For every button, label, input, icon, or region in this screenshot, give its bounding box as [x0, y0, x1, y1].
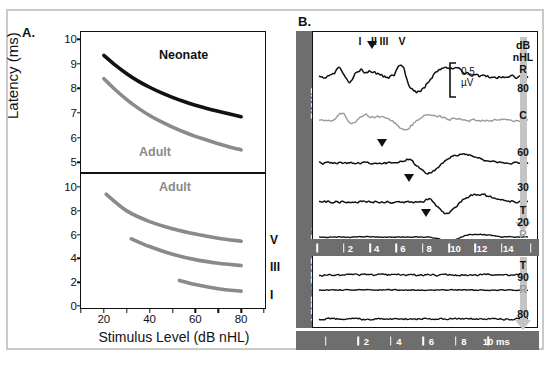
panel-a-xtick-mark: [172, 308, 173, 313]
right-col-header-1: dB: [506, 39, 540, 51]
time-tick-mark: [422, 243, 424, 252]
panel-a-xtick-mark: [80, 308, 81, 313]
time-tick-mark: [455, 336, 457, 345]
time-tick-mark: [390, 336, 392, 345]
panel-a-xtick: 20: [97, 313, 110, 325]
wave-v-peak-marker-30: [404, 174, 414, 182]
panel-a: A. Latency (ms) Stimulus Level (dB nHL) …: [8, 11, 290, 348]
panel-b-waveforms: [313, 32, 535, 325]
time-tick-mark: [530, 243, 532, 252]
wave-v-label: V: [270, 233, 278, 247]
level-arrow-lower-head: [515, 320, 531, 330]
panel-a-xtick-mark: [218, 308, 219, 313]
right-col-label-30: 30: [506, 181, 540, 193]
time-tick-label: 2: [364, 335, 369, 346]
panel-b-side-bar: RIGHT LEFT < TEST EAR >: [296, 31, 313, 328]
adult-curve-label-bottom: Adult: [159, 180, 191, 194]
right-col-label-T-20: T: [506, 204, 540, 216]
panel-a-top-ytick-mark: [77, 137, 81, 138]
panel-a-xtick-mark: [149, 308, 150, 313]
panel-a-bottom-ytick: 10: [64, 181, 77, 193]
wave-i-label: I: [270, 288, 273, 302]
panel-a-top-ytick-mark: [77, 112, 81, 113]
panel-a-xtick-mark: [263, 308, 264, 313]
right-col-label-80: 80: [506, 82, 540, 94]
right-col-label-R-90: R: [506, 283, 540, 295]
time-tick-mark: [343, 243, 345, 252]
time-tick-label: 4: [396, 335, 401, 346]
waveform-trace: [319, 318, 528, 320]
panel-a-y-axis-label: Latency (ms): [4, 32, 21, 119]
time-tick-label: 8: [427, 242, 432, 253]
time-tick-mark: [358, 336, 360, 345]
panel-b: B. RIGHT LEFT < TEST EAR > IIIIIIV 0.5 µ…: [296, 11, 548, 348]
panel-a-bottom-ytick-mark: [77, 305, 81, 306]
panel-a-xtick-mark: [126, 308, 127, 313]
panel-a-bottom-ytick-mark: [77, 234, 81, 235]
waveform-trace: [319, 154, 528, 174]
time-tick-label: 2: [348, 242, 353, 253]
time-tick-mark: [369, 243, 371, 252]
panel-a-top-ytick-mark: [77, 63, 81, 64]
panel-a-top-ytick-mark: [77, 39, 81, 40]
time-tick-label: 12: [477, 242, 488, 253]
panel-a-letter: A.: [22, 25, 35, 40]
time-tick-mark: [422, 336, 424, 345]
panel-a-bottom-ytick-mark: [77, 186, 81, 187]
time-tick-label: 6: [400, 242, 405, 253]
right-col-label-R-80: R: [506, 63, 540, 75]
panel-b-letter: B.: [298, 14, 311, 29]
right-col-header-2: nHL: [506, 51, 540, 63]
right-col-label-R-20: R: [506, 228, 540, 240]
wave-label-i: I: [359, 35, 362, 47]
waveform-trace: [319, 113, 528, 130]
panel-a-xtick-mark: [240, 308, 241, 313]
time-tick-label: 14: [503, 242, 514, 253]
wave-v-peak-marker-60: [377, 139, 387, 147]
panel-b-plot-frame: [312, 31, 538, 328]
panel-a-x-axis-label: Stimulus Level (dB nHL): [64, 329, 284, 345]
right-col-label-90: 90: [506, 271, 540, 283]
panel-a-top-ytick: 10: [64, 33, 77, 45]
scale-bar-bracket: [447, 62, 459, 99]
panel-a-xtick: 60: [189, 313, 202, 325]
panel-a-xtick-mark: [195, 308, 196, 313]
panel-a-bottom-ytick-mark: [77, 210, 81, 211]
time-tick-label: 8: [461, 335, 466, 346]
panel-a-bottom-ytick-mark: [77, 282, 81, 283]
time-tick-mark: [317, 243, 319, 252]
time-tick-label: 10 ms: [483, 335, 510, 346]
right-col-label-60: 60: [506, 146, 540, 158]
panel-a-top-ytick-mark: [77, 161, 81, 162]
right-col-label-C: C: [506, 109, 540, 121]
scale-bar-label: 0.5 µV: [461, 67, 475, 89]
scale-bar-unit: µV: [461, 78, 475, 89]
panel-a-bottom-ytick-mark: [77, 258, 81, 259]
figure-root: A. Latency (ms) Stimulus Level (dB nHL) …: [0, 0, 557, 365]
time-tick-label: 6: [429, 335, 434, 346]
neonate-curve-label: Neonate: [159, 48, 208, 62]
right-col-label-80-lower: 80: [506, 308, 540, 320]
time-tick-label: 10: [450, 242, 461, 253]
time-tick-mark: [396, 243, 398, 252]
right-col-label-T-90: T: [506, 259, 540, 271]
time-axis-top: 2468101214: [296, 239, 539, 256]
wave-iii-label: III: [270, 260, 280, 274]
panel-a-top-plot: 1098765 Neonate Adult: [80, 31, 266, 174]
waveform-trace: [319, 274, 528, 276]
time-tick-label: 4: [374, 242, 379, 253]
right-col-label-20: 20: [506, 216, 540, 228]
wave-label-iii: III: [380, 35, 389, 47]
wave-v-peak-marker-20: [421, 209, 431, 217]
wave-label-v: V: [398, 35, 405, 47]
adult-curve-label-top: Adult: [139, 145, 171, 159]
panel-a-xtick-mark: [103, 308, 104, 313]
waveform-trace: [319, 289, 528, 290]
time-axis-bottom: 246810 ms: [296, 331, 539, 350]
panel-a-top-ytick-mark: [77, 88, 81, 89]
panel-a-xtick: 80: [235, 313, 248, 325]
time-tick-mark: [325, 336, 327, 345]
waveform-trace: [319, 65, 528, 93]
panel-a-bottom-plot: 1086420 20406080 Adult: [80, 174, 266, 309]
panel-a-xtick: 40: [143, 313, 156, 325]
